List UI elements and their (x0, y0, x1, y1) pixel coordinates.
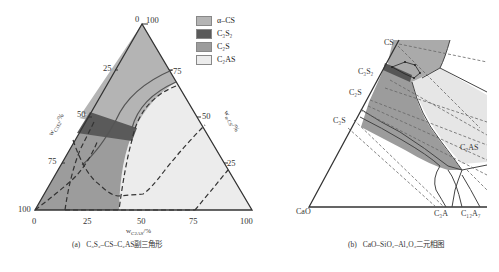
legend-swatch (196, 16, 212, 26)
label-c2s: C₂S (349, 88, 362, 97)
figure-canvas: 0 100 25 50 75 100 75 50 25 0 25 50 75 1… (0, 0, 499, 272)
left-tick-50: 50 (77, 109, 86, 119)
legend-item-c2s: C₂S (196, 40, 235, 53)
right-axis-label: wα-CS/% (221, 109, 241, 134)
legend: α–CS C₃S₂ C₂S C₂AS (196, 14, 235, 66)
caption-b-prefix: (b) (348, 240, 357, 249)
caption-a-text: C₃S₂–CS–C₂AS副三角形 (86, 240, 162, 249)
caption-a: (a) C₃S₂–CS–C₂AS副三角形 (72, 238, 162, 249)
legend-label: α–CS (217, 16, 235, 25)
bottom-tick-50: 50 (137, 216, 146, 226)
left-axis-label: wC3S2/% (47, 112, 67, 137)
legend-label: C₂S (217, 42, 230, 51)
label-cao: CaO (296, 207, 311, 216)
label-c3s2: C₃S₂ (358, 67, 373, 76)
left-tick-25: 25 (103, 63, 112, 73)
legend-item-c2as: C₂AS (196, 53, 235, 66)
bottom-tick-25: 25 (83, 216, 92, 226)
legend-label: C₂AS (217, 55, 235, 64)
label-c12a7: C₁₂A₇ (461, 209, 480, 218)
right-tick-75: 75 (173, 66, 182, 76)
legend-label: C₃S₂ (217, 29, 232, 38)
label-cs: CS (384, 38, 394, 47)
caption-a-prefix: (a) (72, 240, 80, 249)
right-tick-50: 50 (202, 111, 211, 121)
legend-swatch (196, 55, 212, 65)
bottom-tick-100: 100 (240, 216, 253, 226)
right-tick-25: 25 (227, 158, 236, 168)
legend-item-c3s2: C₃S₂ (196, 27, 235, 40)
label-c2as: C₂AS (460, 143, 478, 152)
bottom-axis-label: wC2AS/% (126, 227, 151, 236)
left-tick-0: 0 (135, 14, 139, 24)
label-c3a: C₃A (434, 209, 448, 218)
left-tick-75: 75 (48, 156, 57, 166)
bottom-tick-0: 0 (32, 216, 36, 226)
left-tick-100: 100 (18, 204, 31, 214)
legend-item-alpha-cs: α–CS (196, 14, 235, 27)
legend-swatch (196, 29, 212, 39)
legend-swatch (196, 42, 212, 52)
right-tick-100: 100 (146, 15, 159, 25)
bottom-tick-75: 75 (189, 216, 198, 226)
label-c3s: C₃S (333, 116, 346, 125)
caption-b-text: CaO–SiO₂–Al₂O₃二元相图 (363, 240, 445, 249)
caption-b: (b) CaO–SiO₂–Al₂O₃二元相图 (348, 238, 444, 249)
